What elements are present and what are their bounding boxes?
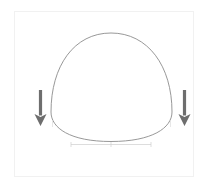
left-load-arrow: [35, 90, 47, 126]
figure-drawing: [0, 0, 209, 191]
left-load-arrow-head: [35, 114, 47, 126]
egg-contour-path: [51, 33, 172, 142]
right-load-arrow: [179, 90, 191, 126]
right-load-arrow-head: [179, 114, 191, 126]
figure-canvas: Deformable closed contour under two down…: [0, 0, 209, 191]
